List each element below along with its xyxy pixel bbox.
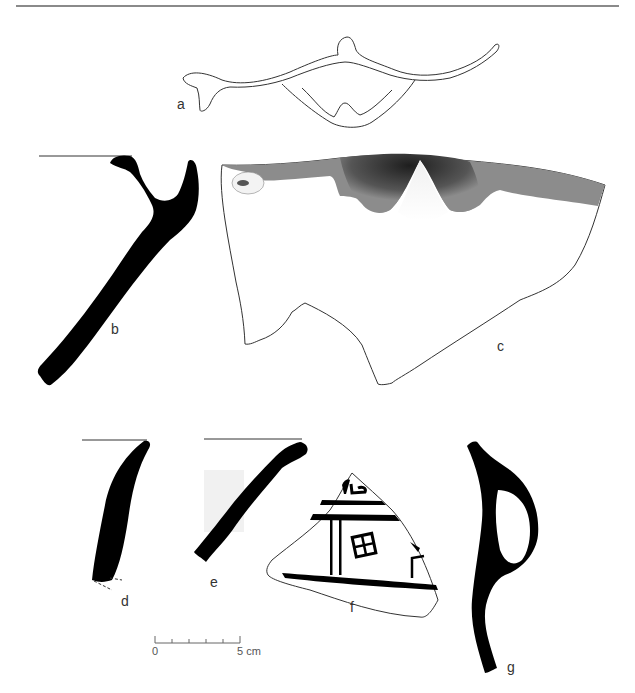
label-g: g [507,660,515,674]
sherd-c [221,154,605,385]
label-c: c [497,339,504,353]
label-b: b [111,322,119,336]
label-e: e [210,575,218,589]
scale-bar [155,636,240,643]
sherd-e-profile [194,439,308,562]
sherd-a-outline [183,37,499,127]
sherd-f [267,473,438,617]
scale-start-label: 0 [152,646,158,657]
sherd-g-profile [467,442,538,673]
pottery-figure [0,0,635,693]
scale-end-label: 5 cm [237,646,261,657]
label-a: a [177,97,185,111]
sherd-b-profile [38,155,199,385]
label-d: d [121,594,129,608]
label-f: f [350,600,354,614]
sherd-d-profile [82,440,150,590]
